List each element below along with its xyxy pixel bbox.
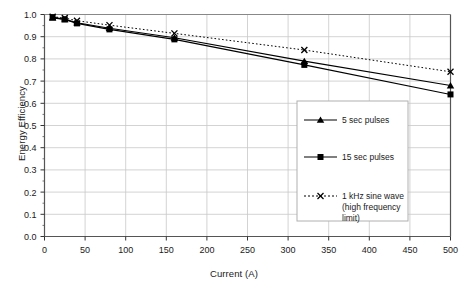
y-tick-label: 0.4 bbox=[24, 143, 37, 153]
chart-legend: 5 sec pulses15 sec pulses1 kHz sine wave… bbox=[297, 101, 408, 223]
y-tick-label: 0.2 bbox=[24, 188, 37, 198]
y-tick-label: 0.1 bbox=[24, 210, 37, 220]
x-tick-label: 450 bbox=[402, 245, 417, 255]
x-tick-label: 150 bbox=[159, 245, 174, 255]
data-series-layer bbox=[49, 14, 454, 98]
x-tick-label: 50 bbox=[80, 245, 90, 255]
y-tick-label: 1.0 bbox=[24, 10, 37, 20]
chart-figure: Energy Efficiency Current (A) 0501001502… bbox=[0, 0, 468, 292]
legend-label: 5 sec pulses bbox=[342, 115, 389, 125]
y-tick-label: 0.8 bbox=[24, 54, 37, 64]
y-tick-label: 0.5 bbox=[24, 121, 37, 131]
y-tick-labels: 0.00.10.20.30.40.50.60.70.80.91.0 bbox=[24, 10, 37, 242]
y-tick-label: 0.9 bbox=[24, 32, 37, 42]
x-tick-label: 500 bbox=[443, 245, 458, 255]
legend-label: 15 sec pulses bbox=[342, 152, 394, 162]
legend-label: limit) bbox=[342, 213, 360, 223]
x-tick-label: 250 bbox=[240, 245, 255, 255]
data-series bbox=[50, 14, 454, 75]
x-tick-label: 200 bbox=[199, 245, 214, 255]
x-tick-label: 300 bbox=[281, 245, 296, 255]
chart-plot: 050100150200250300350400450500 0.00.10.2… bbox=[0, 0, 468, 292]
x-tick-label: 400 bbox=[362, 245, 377, 255]
data-marker-square bbox=[171, 36, 177, 42]
y-tick-label: 0.0 bbox=[24, 232, 37, 242]
x-tick-labels: 050100150200250300350400450500 bbox=[42, 245, 458, 255]
legend-label: 1 kHz sine wave bbox=[342, 191, 404, 201]
y-tick-label: 0.7 bbox=[24, 77, 37, 87]
x-tick-label: 100 bbox=[118, 245, 133, 255]
data-marker-square bbox=[318, 154, 324, 160]
x-tick-label: 0 bbox=[42, 245, 47, 255]
x-tick-label: 350 bbox=[321, 245, 336, 255]
series-line bbox=[53, 17, 451, 72]
data-marker-square bbox=[301, 62, 307, 68]
data-marker-square bbox=[448, 91, 454, 97]
y-tick-label: 0.6 bbox=[24, 99, 37, 109]
y-tick-label: 0.3 bbox=[24, 165, 37, 175]
legend-label: (high frequency bbox=[342, 202, 401, 212]
